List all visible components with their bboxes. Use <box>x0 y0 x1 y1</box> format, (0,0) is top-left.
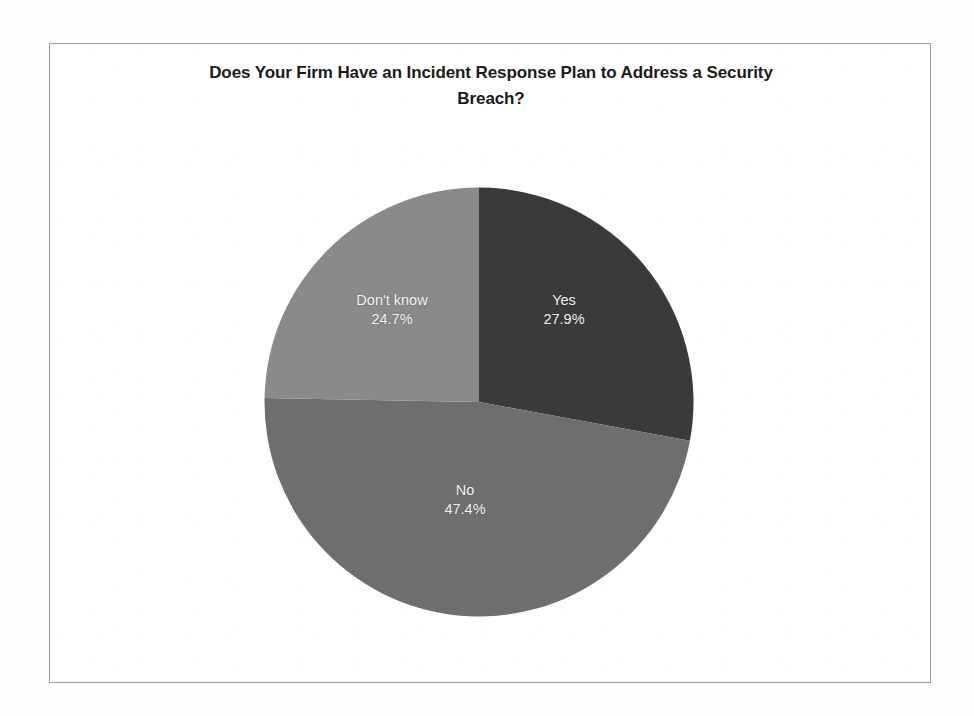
pie-chart: Yes 27.9% No 47.4% Don't know 24.7% <box>264 187 694 617</box>
slice-label-dont-know-value: 24.7% <box>326 310 458 329</box>
slice-label-yes: Yes 27.9% <box>518 291 610 329</box>
slice-label-no-value: 47.4% <box>419 500 511 519</box>
chart-frame: Does Your Firm Have an Incident Response… <box>49 43 931 683</box>
pie-slice-group <box>265 188 694 617</box>
slice-label-dont-know-name: Don't know <box>356 292 427 308</box>
slice-label-no-name: No <box>456 482 475 498</box>
slice-label-yes-value: 27.9% <box>518 310 610 329</box>
slice-label-no: No 47.4% <box>419 481 511 519</box>
pie-svg <box>264 187 694 617</box>
chart-title: Does Your Firm Have an Incident Response… <box>180 60 802 112</box>
slice-label-yes-name: Yes <box>552 292 576 308</box>
slice-label-dont-know: Don't know 24.7% <box>326 291 458 329</box>
